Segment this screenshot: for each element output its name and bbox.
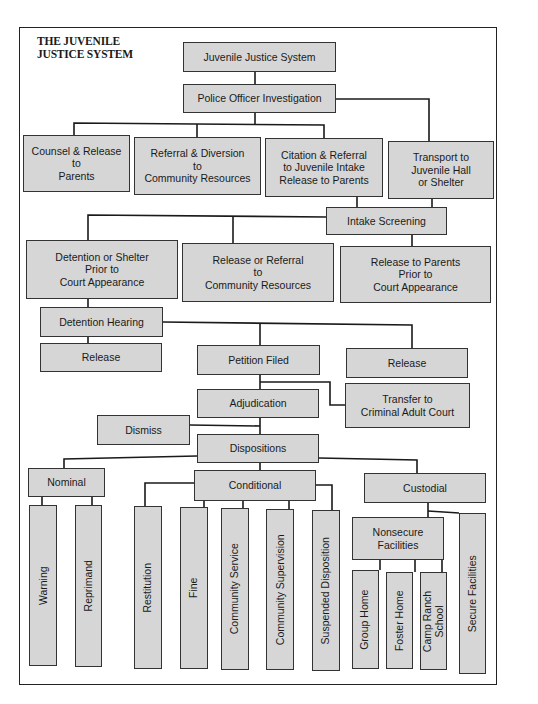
node-detention-shelter: Detention or Shelter Prior to Court Appe… [26, 240, 178, 299]
node-release-right: Release [346, 348, 468, 378]
node-warning: Warning [29, 505, 57, 666]
node-dismiss: Dismiss [97, 415, 190, 445]
node-nonsecure-facilities: Nonsecure Facilities [352, 517, 444, 560]
node-community-supervision: Community Supervision [266, 509, 294, 670]
node-referral-diversion: Referral & Diversion to Community Resour… [134, 137, 261, 195]
node-custodial: Custodial [364, 473, 486, 503]
node-dispositions: Dispositions [197, 434, 319, 463]
node-release-referral: Release or Referral to Community Resourc… [182, 243, 334, 302]
node-suspended-disposition: Suspended Disposition [312, 510, 340, 671]
node-citation-referral: Citation & Referral to Juvenile Intake R… [265, 138, 383, 197]
node-foster-home: Foster Home [386, 572, 413, 669]
node-community-service: Community Service [221, 508, 249, 670]
node-reprimand: Reprimand [75, 505, 102, 667]
node-release-left: Release [40, 343, 162, 372]
node-transfer-adult-court: Transfer to Criminal Adult Court [345, 383, 470, 428]
node-fine: Fine [180, 507, 208, 669]
node-secure-facilities: Secure Facilities [459, 513, 486, 674]
node-adjudication: Adjudication [197, 389, 319, 418]
node-conditional: Conditional [194, 470, 316, 501]
node-nominal: Nominal [28, 468, 105, 497]
node-release-parents: Release to Parents Prior to Court Appear… [340, 246, 491, 303]
node-counsel-release: Counsel & Release to Parents [23, 135, 130, 192]
node-juvenile-justice-system: Juvenile Justice System [183, 42, 336, 72]
node-camp-ranch-school: Camp Ranch School [420, 572, 447, 670]
node-petition-filed: Petition Filed [197, 345, 320, 375]
node-transport: Transport to Juvenile Hall or Shelter [388, 141, 494, 199]
node-group-home: Group Home [352, 570, 379, 669]
node-restitution: Restitution [134, 506, 162, 669]
node-police-officer-investigation: Police Officer Investigation [183, 84, 336, 113]
node-intake-screening: Intake Screening [326, 207, 447, 235]
node-detention-hearing: Detention Hearing [40, 307, 163, 337]
